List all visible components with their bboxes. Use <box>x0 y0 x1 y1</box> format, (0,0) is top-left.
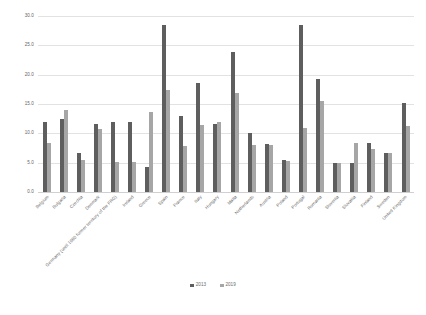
x-axis: BelgiumBulgariaCzechiaDenmarkGermany (un… <box>38 192 414 282</box>
y-axis: 0.05.010.015.020.025.030.0 <box>0 16 38 192</box>
bar-group <box>209 16 226 192</box>
x-axis-tick-label: Hungary <box>205 195 221 211</box>
bar[interactable] <box>406 126 410 192</box>
legend-label: 2019 <box>226 283 236 288</box>
bar-group <box>294 16 311 192</box>
bar[interactable] <box>303 128 307 192</box>
bar-group <box>192 16 209 192</box>
bar[interactable] <box>166 90 170 192</box>
plot-area <box>38 16 414 192</box>
bar-groups <box>38 16 414 192</box>
bar[interactable] <box>183 146 187 192</box>
bar[interactable] <box>47 143 51 192</box>
bar-group <box>141 16 158 192</box>
x-axis-tick-label: Romania <box>307 195 323 211</box>
bar-group <box>397 16 414 192</box>
bar[interactable] <box>115 162 119 193</box>
bar-group <box>89 16 106 192</box>
legend-item[interactable]: 2019 <box>220 283 236 288</box>
x-axis-tick-label: Finland <box>361 195 375 209</box>
bar[interactable] <box>337 163 341 192</box>
x-axis-tick-label: Slovenia <box>325 195 341 211</box>
x-axis-tick-label: Malta <box>227 195 238 206</box>
legend-swatch-icon <box>190 284 194 288</box>
bar[interactable] <box>269 145 273 192</box>
x-axis-tick-label: Poland <box>276 195 289 208</box>
bar-group <box>72 16 89 192</box>
legend-label: 2013 <box>196 283 206 288</box>
bar[interactable] <box>217 122 221 192</box>
bar[interactable] <box>200 125 204 192</box>
x-axis-tick-label: Greece <box>138 195 152 209</box>
legend: 20132019 <box>0 283 426 288</box>
y-axis-tick-label: 30.0 <box>25 14 34 19</box>
y-axis-tick-label: 15.0 <box>25 102 34 107</box>
bar-group <box>38 16 55 192</box>
bar-group <box>312 16 329 192</box>
bar-group <box>106 16 123 192</box>
bar[interactable] <box>286 161 290 192</box>
bar-group <box>329 16 346 192</box>
bar-group <box>380 16 397 192</box>
bar-group <box>226 16 243 192</box>
x-axis-tick-label: Czechia <box>69 195 84 210</box>
bar[interactable] <box>252 145 256 192</box>
y-axis-tick-label: 20.0 <box>25 72 34 77</box>
y-axis-tick-label: 25.0 <box>25 43 34 48</box>
x-axis-tick-label: Italy <box>194 195 203 204</box>
bar-group <box>277 16 294 192</box>
x-axis-tick-label: Spain <box>158 195 170 207</box>
bar-group <box>363 16 380 192</box>
bar[interactable] <box>132 162 136 193</box>
x-axis-tick-label: France <box>173 195 186 208</box>
legend-swatch-icon <box>220 284 224 288</box>
bar-group <box>175 16 192 192</box>
bar[interactable] <box>320 101 324 192</box>
bar-chart: 0.05.010.015.020.025.030.0 BelgiumBulgar… <box>0 0 426 315</box>
bar[interactable] <box>388 153 392 192</box>
bar-group <box>346 16 363 192</box>
bar[interactable] <box>235 93 239 192</box>
bar[interactable] <box>149 112 153 192</box>
bar[interactable] <box>354 143 358 192</box>
bar-group <box>123 16 140 192</box>
x-axis-tick-label: Belgium <box>35 195 50 210</box>
bar[interactable] <box>81 160 85 192</box>
x-axis-tick-label: Slovakia <box>342 195 358 211</box>
bar[interactable] <box>64 110 68 192</box>
x-axis-tick-label: Austria <box>259 195 272 208</box>
bar[interactable] <box>98 129 102 192</box>
bar-group <box>260 16 277 192</box>
bar-group <box>158 16 175 192</box>
bar-group <box>243 16 260 192</box>
legend-item[interactable]: 2013 <box>190 283 206 288</box>
y-axis-tick-label: 5.0 <box>27 160 34 165</box>
y-axis-tick-label: 10.0 <box>25 131 34 136</box>
bar-group <box>55 16 72 192</box>
x-axis-tick-label: Portugal <box>291 195 306 210</box>
y-axis-tick-label: 0.0 <box>27 190 34 195</box>
x-axis-tick-label: Bulgaria <box>52 195 67 210</box>
x-axis-tick-label: Ireland <box>122 195 135 208</box>
bar[interactable] <box>371 149 375 192</box>
